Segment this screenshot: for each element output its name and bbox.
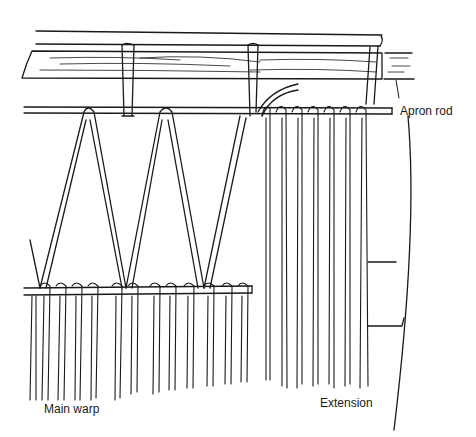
extension-bracket (368, 116, 411, 430)
top-beam (22, 31, 414, 79)
tie-cords (122, 36, 382, 116)
apron-rod (24, 80, 399, 114)
warp-extension-illustration (0, 0, 476, 437)
main-warp-label: Main warp (44, 402, 99, 416)
warp-loops (30, 84, 298, 288)
extension-label: Extension (320, 396, 373, 410)
extension-warp (262, 106, 368, 388)
main-warp-threads (30, 283, 248, 400)
apron-rod-label: Apron rod (400, 104, 453, 118)
